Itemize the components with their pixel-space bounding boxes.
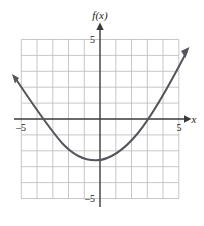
y-axis-tick-label-positive-5: 5 — [90, 34, 95, 45]
graph-figure: f(x) x 5 –5 –5 5 — [0, 0, 204, 226]
function-axis-label: f(x) — [92, 9, 108, 22]
x-axis-tick-label-negative-5: –5 — [15, 122, 26, 133]
figure-background — [0, 0, 204, 226]
x-axis-label: x — [191, 113, 197, 125]
x-axis-tick-label-positive-5: 5 — [177, 122, 182, 133]
y-axis-tick-label-negative-5: –5 — [84, 193, 95, 204]
coordinate-plane-graph: f(x) x 5 –5 –5 5 — [0, 0, 204, 226]
